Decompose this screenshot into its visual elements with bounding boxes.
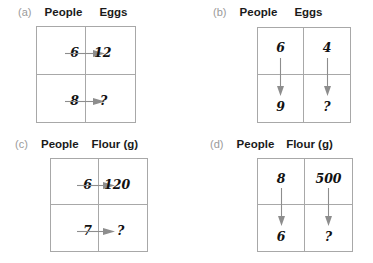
panel-d: (d) People Flour (g) 8 500 6 (210, 138, 370, 263)
panel-d-value-r1c1: 8 (258, 173, 304, 186)
panel-a-value-r1c2: 12 (94, 47, 111, 60)
panel-a-cell-r1c1: 6 (37, 27, 86, 75)
panel-b-column-header-people: People (235, 6, 281, 18)
panel-c-value-r2c1: 7 (83, 225, 92, 238)
panel-b-cell-r1c1: 6 (258, 28, 304, 75)
panel-a-column-header-eggs: Eggs (96, 6, 130, 18)
panel-b-letter: (b) (213, 6, 226, 18)
panel-d-value-r1c2: 500 (305, 173, 352, 186)
panel-b-table: 6 4 9 ? (257, 27, 351, 123)
panel-c-value-r1c2: 120 (104, 179, 130, 192)
panel-d-letter: (d) (210, 138, 223, 150)
panel-d-cell-r2c1: 6 (258, 205, 305, 251)
panel-a-column-header-people: People (40, 6, 86, 18)
panel-a-letter: (a) (18, 6, 31, 18)
panel-c-table: 6 120 7 ? (50, 158, 148, 252)
panel-c-letter: (c) (15, 138, 28, 150)
panel-a-cell-r2c2: ? (86, 75, 135, 123)
panel-d-cell-r2c2: ? (305, 205, 352, 251)
panel-c-cell-r1c2: 120 (99, 159, 147, 205)
panel-a-value-r1c1: 6 (70, 47, 79, 60)
panel-b-value-r1c2: 4 (304, 42, 350, 55)
panel-a: (a) People Eggs 6 12 8 (12, 6, 182, 131)
panel-b-cell-r2c1: 9 (258, 75, 304, 122)
panel-a-value-r2c1: 8 (70, 95, 79, 108)
panel-c-header: (c) People Flour (g) (15, 138, 141, 150)
panel-c-cell-r2c1: 7 (51, 205, 99, 251)
panel-d-cell-r1c2: 500 (305, 159, 352, 205)
panel-c-value-r1c1: 6 (83, 179, 92, 192)
panel-a-table: 6 12 8 ? (36, 26, 136, 123)
panel-b-cell-r2c2: ? (304, 75, 350, 122)
panel-d-table: 8 500 6 ? (257, 158, 353, 252)
panel-b-value-r1c1: 6 (258, 42, 303, 55)
panel-c-cell-r1c1: 6 (51, 159, 99, 205)
panel-c-column-header-people: People (37, 138, 83, 150)
panel-d-column-header-people: People (232, 138, 278, 150)
panel-d-header: (d) People Flour (g) (210, 138, 335, 150)
panel-b: (b) People Eggs 6 4 9 (210, 6, 370, 131)
panel-d-value-r2c1: 6 (258, 231, 304, 244)
panel-d-value-r2c2: ? (305, 231, 352, 244)
panel-a-value-r2c2: ? (100, 95, 107, 108)
panel-b-column-header-eggs: Eggs (291, 6, 325, 18)
panel-a-header: (a) People Eggs (18, 6, 130, 18)
panel-a-cell-r2c1: 8 (37, 75, 86, 123)
panel-d-cell-r1c1: 8 (258, 159, 305, 205)
panel-b-header: (b) People Eggs (213, 6, 325, 18)
panel-c-cell-r2c2: ? (99, 205, 147, 251)
panel-b-value-r2c2: ? (304, 101, 350, 114)
panel-b-value-r2c1: 9 (258, 101, 303, 114)
panel-c-value-r2c2: ? (117, 225, 124, 238)
panel-c-column-header-flour: Flour (g) (89, 138, 141, 150)
panel-b-cell-r1c2: 4 (304, 28, 350, 75)
panel-c: (c) People Flour (g) 6 120 7 (12, 138, 192, 263)
panel-a-cell-r1c2: 12 (86, 27, 135, 75)
panel-d-column-header-flour: Flour (g) (283, 138, 335, 150)
